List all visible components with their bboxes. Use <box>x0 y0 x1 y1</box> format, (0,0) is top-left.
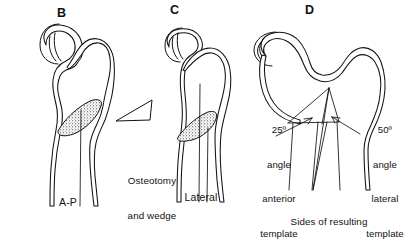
view-label-ap: A-P <box>46 197 90 209</box>
middle-caption-line-1: Osteotomy <box>116 175 188 187</box>
annotation-bottom-line-1: Sides of resulting <box>264 216 394 228</box>
annotation-right-line-1: 50º <box>356 124 414 136</box>
panel-letter-d: D <box>305 5 314 17</box>
panel-letter-b: B <box>57 8 66 20</box>
annotation-left-line-2: angle <box>248 159 310 171</box>
panel-letter-c: C <box>170 5 179 17</box>
wedge-graft-shape <box>116 100 152 121</box>
annotation-bottom-caption: Sides of resulting anterior triangle twi… <box>264 193 394 248</box>
middle-caption-line-2: and wedge <box>116 210 188 222</box>
annotation-right-line-2: angle <box>356 159 414 171</box>
panel-b-bone <box>40 24 114 206</box>
figure-root: B C D A-P Lateral Osteotomy and wedge 25… <box>0 0 414 248</box>
middle-caption: Osteotomy and wedge <box>116 152 188 244</box>
annotation-left-line-1: 25º <box>248 124 310 136</box>
